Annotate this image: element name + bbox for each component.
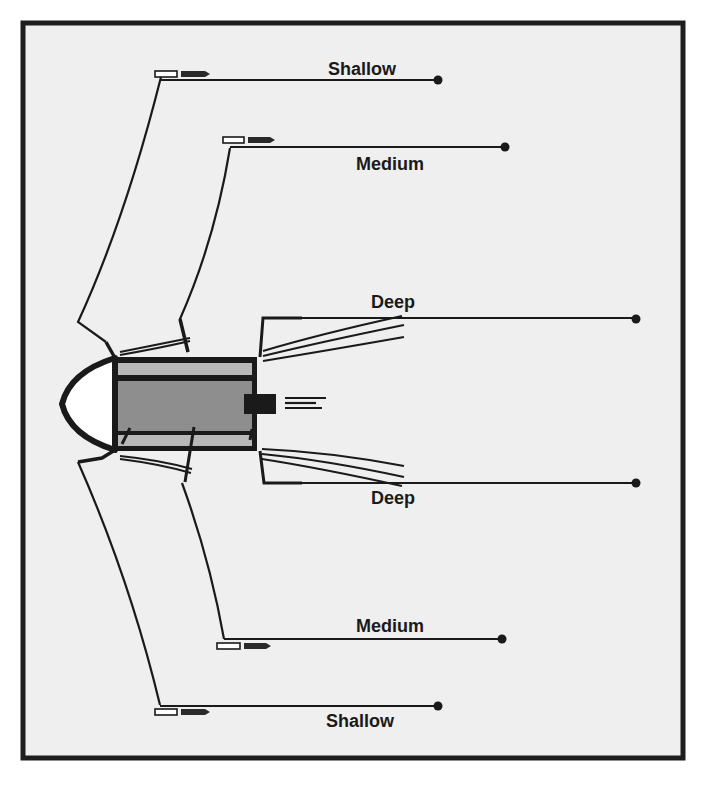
end-marker-top-shallow [434, 76, 443, 85]
depth-diagram: Shallow Medium Deep [0, 0, 707, 807]
label-bottom-shallow: Shallow [326, 711, 395, 731]
label-top-medium: Medium [356, 154, 424, 174]
label-top-deep: Deep [371, 292, 415, 312]
weight-top-medium [248, 137, 275, 143]
end-marker-top-medium [501, 143, 510, 152]
end-marker-top-deep [632, 315, 641, 324]
label-bottom-medium: Medium [356, 616, 424, 636]
label-bottom-deep: Deep [371, 488, 415, 508]
tail-block [244, 394, 276, 414]
housing-band-bottom [118, 435, 252, 446]
label-top-shallow: Shallow [328, 59, 397, 79]
end-marker-bottom-shallow [434, 702, 443, 711]
weight-bottom-shallow [181, 709, 210, 715]
weight-top-shallow [181, 71, 210, 77]
weight-bottom-medium [244, 643, 271, 649]
float-bottom-medium [217, 643, 240, 649]
housing-core [118, 381, 252, 431]
end-marker-bottom-deep [632, 479, 641, 488]
housing-band-top [118, 363, 252, 375]
end-marker-bottom-medium [498, 635, 507, 644]
float-bottom-shallow [155, 709, 177, 715]
float-top-medium [223, 137, 244, 143]
float-top-shallow [155, 71, 177, 77]
